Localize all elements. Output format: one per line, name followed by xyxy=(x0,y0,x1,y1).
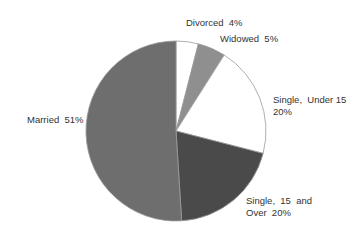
slice-label: Widowed 5% xyxy=(220,33,279,44)
slice-label: Single, Under 1520% xyxy=(273,94,346,117)
slice-label: Divorced 4% xyxy=(186,17,243,28)
slice-label: Married 51% xyxy=(27,114,84,125)
pie-slice-married xyxy=(86,41,182,221)
pie-slices xyxy=(86,41,266,221)
pie-chart: Divorced 4%Widowed 5%Single, Under 1520%… xyxy=(0,0,363,239)
slice-label: Single, 15 andOver 20% xyxy=(246,195,312,218)
pie-chart-canvas: Divorced 4%Widowed 5%Single, Under 1520%… xyxy=(0,0,363,239)
